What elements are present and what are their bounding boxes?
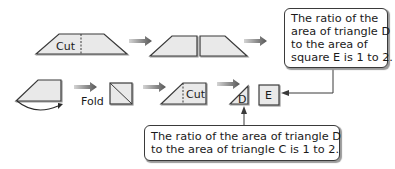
arrow-right-icon — [129, 36, 152, 46]
fold-curved-arrow — [17, 101, 58, 110]
callout-line: square E is 1 to 2. — [291, 51, 387, 64]
arrow-right-icon — [143, 82, 166, 92]
arrowhead-left-icon — [281, 90, 289, 96]
connector-top-callout — [287, 68, 333, 93]
piece-to-fold — [16, 80, 61, 101]
fold-label: Fold — [81, 95, 104, 108]
folded-square — [110, 83, 132, 104]
callout-ratio-d-to-e: The ratio of the area of triangle D to t… — [284, 8, 388, 68]
cut-label-bottom: Cut — [186, 88, 206, 101]
arrow-right-icon — [74, 82, 97, 92]
callout-ratio-d-to-c: The ratio of the area of triangle D to t… — [144, 125, 340, 161]
callout-line: area of triangle D — [291, 25, 387, 38]
square-e-label: E — [265, 89, 272, 102]
cut-label-top: Cut — [56, 40, 76, 53]
left-piece-trapezoid — [150, 36, 197, 56]
callout-line: The ratio of the area of triangle D — [151, 130, 339, 143]
arrow-right-icon — [217, 79, 240, 89]
right-piece-trapezoid — [200, 36, 247, 56]
arrowhead-up-icon — [241, 106, 247, 114]
callout-line: to the area of triangle C is 1 to 2. — [151, 143, 339, 156]
callout-line: The ratio of the — [291, 12, 387, 25]
triangle-d-label: D — [238, 93, 246, 106]
fold-arrowhead-icon — [58, 103, 63, 109]
arrow-right-icon — [244, 36, 267, 46]
trapezoid-with-cut — [36, 34, 127, 54]
callout-line: to the area of — [291, 38, 387, 51]
